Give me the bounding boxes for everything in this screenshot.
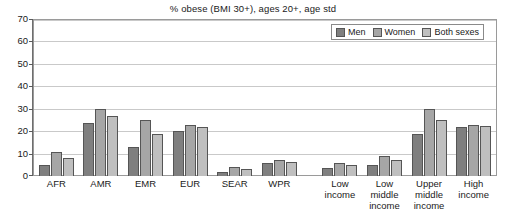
chart-title: % obese (BMI 30+), ages 20+, age std — [0, 3, 506, 14]
legend-swatch-icon — [336, 28, 345, 37]
bar — [424, 109, 435, 176]
bar — [379, 156, 390, 176]
x-axis-label-line: AMR — [79, 178, 124, 189]
bar — [140, 120, 151, 176]
x-axis-label-line: Low — [318, 178, 363, 189]
x-axis-label: Lowincome — [318, 178, 363, 200]
bar-group — [168, 20, 213, 176]
bar — [128, 147, 139, 176]
bar — [391, 160, 402, 176]
legend-item[interactable]: Women — [373, 27, 416, 37]
bar-group — [318, 20, 363, 176]
bar — [173, 131, 184, 176]
bar-group — [212, 20, 257, 176]
y-axis: 010203040506070 — [0, 19, 33, 176]
bar-group — [451, 20, 496, 176]
x-axis-label: AMR — [79, 178, 124, 189]
bar — [229, 167, 240, 176]
bar — [436, 120, 447, 176]
bar — [367, 165, 378, 176]
group-gap-spacer — [302, 175, 318, 176]
bar — [39, 165, 50, 176]
legend-swatch-icon — [373, 28, 382, 37]
bar — [152, 134, 163, 176]
y-axis-tick-label: 60 — [17, 37, 28, 47]
bar — [456, 127, 467, 176]
x-axis-label: WPR — [257, 178, 302, 189]
x-axis-label-line: EMR — [123, 178, 168, 189]
x-axis-label: EMR — [123, 178, 168, 189]
x-axis-labels: AFRAMREMREURSEARWPRLowincomeLowmiddleinc… — [34, 178, 496, 211]
legend-item[interactable]: Both sexes — [422, 27, 479, 37]
plot-area — [34, 20, 496, 176]
bar — [412, 134, 423, 176]
bar — [334, 163, 345, 176]
x-axis-label-line: income — [318, 189, 363, 200]
y-axis-tick-label: 40 — [17, 82, 28, 92]
x-axis-label: AFR — [34, 178, 79, 189]
bar-group — [407, 20, 452, 176]
bar — [83, 123, 94, 176]
x-axis-label-line: middle — [407, 189, 452, 200]
x-axis-label-line: High — [451, 178, 496, 189]
bar-group — [79, 20, 124, 176]
bar — [63, 158, 74, 176]
legend-swatch-icon — [422, 28, 431, 37]
x-axis-label-line: income — [407, 200, 452, 211]
bar — [51, 152, 62, 177]
y-axis-tick-label: 70 — [17, 14, 28, 24]
y-axis-tick-label: 30 — [17, 104, 28, 114]
bar — [95, 109, 106, 176]
bar-groups — [34, 20, 496, 176]
bar — [217, 172, 228, 176]
x-axis-label-line: WPR — [257, 178, 302, 189]
bar — [107, 116, 118, 176]
x-axis-label-line: income — [451, 189, 496, 200]
bar — [262, 163, 273, 176]
bar-group — [34, 20, 79, 176]
bar-group — [123, 20, 168, 176]
legend-label: Both sexes — [434, 27, 479, 37]
y-axis-tick-label: 50 — [17, 59, 28, 69]
x-axis-label: Highincome — [451, 178, 496, 200]
label-gap-spacer — [302, 178, 318, 179]
x-axis-label: EUR — [168, 178, 213, 189]
x-axis-label: Lowmiddleincome — [362, 178, 407, 211]
x-axis-label: SEAR — [212, 178, 257, 189]
x-axis-label: Uppermiddleincome — [407, 178, 452, 211]
x-axis-label-line: SEAR — [212, 178, 257, 189]
legend-label: Men — [348, 27, 366, 37]
y-axis-tick-label: 20 — [17, 126, 28, 136]
x-axis-label-line: EUR — [168, 178, 213, 189]
bar — [185, 125, 196, 176]
x-axis-label-line: Low — [362, 178, 407, 189]
bar-group — [257, 20, 302, 176]
bar — [480, 126, 491, 176]
y-axis-tick-label: 10 — [17, 149, 28, 159]
x-axis-label-line: income — [362, 200, 407, 211]
legend-label: Women — [385, 27, 416, 37]
bar — [346, 165, 357, 176]
x-axis-label-line: middle — [362, 189, 407, 200]
chart-legend: MenWomenBoth sexes — [331, 24, 484, 40]
y-axis-tick-label: 0 — [23, 171, 28, 181]
bar — [286, 162, 297, 176]
bar — [241, 169, 252, 176]
bar-group — [362, 20, 407, 176]
bar — [322, 168, 333, 176]
bar — [468, 125, 479, 176]
x-axis-label-line: AFR — [34, 178, 79, 189]
chart-figure: % obese (BMI 30+), ages 20+, age std 010… — [0, 0, 506, 222]
x-axis-label-line: Upper — [407, 178, 452, 189]
bar — [197, 127, 208, 176]
bar — [274, 160, 285, 176]
legend-item[interactable]: Men — [336, 27, 366, 37]
